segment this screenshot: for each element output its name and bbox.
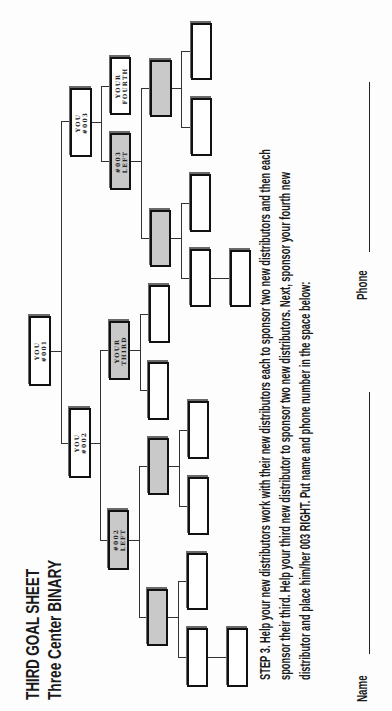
tree-node-you-002: YOU#002 [69, 408, 91, 478]
connector [91, 443, 100, 444]
tree-node-level3 [147, 589, 168, 646]
tree-node-level3 [150, 210, 171, 267]
connector [51, 351, 61, 352]
connector [61, 121, 70, 122]
connector [101, 86, 110, 87]
node-label: YOU#002 [73, 432, 87, 454]
connector [100, 540, 108, 541]
connector [211, 278, 230, 279]
connector [101, 86, 102, 162]
connector [181, 278, 190, 279]
instructions-line-3: distributor and place him/her 003 RIGHT.… [296, 282, 313, 680]
connector [140, 314, 141, 390]
name-field[interactable] [369, 392, 370, 654]
sheet-title: THIRD GOAL SHEET [22, 569, 44, 700]
connector [101, 161, 110, 162]
tree-node-level4 [191, 98, 212, 156]
node-label: #003LEFT [114, 150, 128, 172]
tree-node-level4 [187, 628, 208, 687]
tree-node-your-third: YOURTHIRD [109, 321, 130, 380]
tree-node-level3 [150, 60, 172, 117]
node-label: YOURTHIRD [113, 336, 127, 365]
connector [139, 617, 147, 618]
connector [181, 127, 191, 128]
connector [208, 657, 227, 658]
connector [129, 540, 139, 541]
tree-node-you-003: YOU#003 [70, 88, 92, 157]
tree-node-level4 [187, 553, 208, 610]
connector [172, 88, 181, 89]
tree-node-level4 [188, 477, 209, 535]
tree-node-level3 [148, 438, 169, 495]
connector [181, 203, 182, 278]
goal-sheet-page: THIRD GOAL SHEET Three Center BINARY YOU… [0, 0, 392, 711]
phone-label: Phone [353, 270, 370, 300]
connector [171, 238, 181, 239]
connector [179, 430, 188, 431]
connector [179, 506, 188, 507]
tree-node-level4 [190, 174, 211, 232]
tree-node-002-left: #002LEFT [108, 510, 129, 570]
connector [131, 161, 141, 162]
tree-node-level4 [188, 401, 209, 459]
tree-node-level4 [190, 249, 211, 307]
tree-node-level5 [227, 628, 248, 687]
connector [140, 314, 149, 315]
connector [179, 430, 180, 506]
connector [168, 617, 178, 618]
node-label: YOU#003 [74, 111, 88, 133]
node-label: YOU#001 [33, 340, 47, 362]
tree-node-level3 [148, 362, 169, 420]
tree-node-level5 [230, 250, 251, 307]
connector [141, 88, 142, 238]
connector [169, 466, 179, 467]
connector [100, 350, 109, 351]
connector [181, 203, 190, 204]
connector [92, 122, 101, 123]
name-label: Name [353, 675, 370, 702]
instructions-line-1: STEP 3. Help your new distributors work … [256, 149, 273, 680]
connector [100, 350, 101, 540]
node-label: #002LEFT [112, 529, 126, 551]
connector [130, 350, 140, 351]
connector [140, 390, 148, 391]
tree-node-you-001: YOU#001 [29, 316, 51, 386]
tree-node-level3 [149, 285, 170, 343]
connector [61, 443, 69, 444]
tree-node-your-fourth: YOURFOURTH [110, 57, 131, 115]
tree-node-003-left: #003LEFT [110, 133, 131, 190]
connector [178, 581, 179, 657]
connector [61, 121, 62, 444]
tree-node-level4 [191, 23, 212, 80]
connector [178, 657, 187, 658]
instructions-line-2: sponsor their third. Help your third new… [276, 172, 293, 680]
connector [141, 88, 150, 89]
node-label: YOURFOURTH [114, 68, 128, 105]
connector [178, 581, 187, 582]
connector [139, 466, 140, 618]
sheet-subtitle: Three Center BINARY [44, 560, 66, 700]
phone-field[interactable] [369, 82, 370, 252]
connector [141, 238, 150, 239]
connector [181, 51, 182, 127]
connector [181, 51, 191, 52]
connector [139, 466, 148, 467]
